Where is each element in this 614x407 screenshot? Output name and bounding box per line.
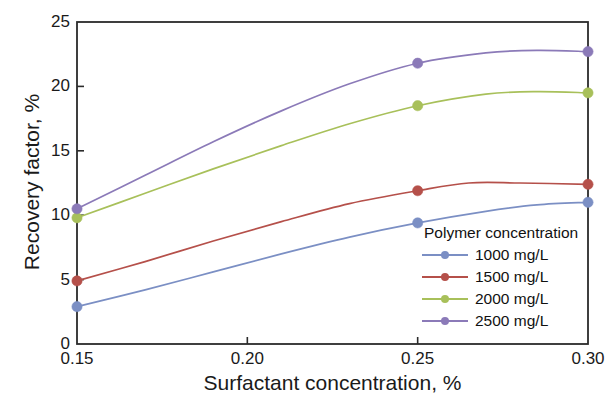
data-point-marker (72, 302, 82, 312)
data-point-marker (413, 58, 423, 68)
data-point-marker (583, 47, 593, 57)
y-tick-label: 25 (8, 12, 70, 32)
legend-item-label: 2000 mg/L (475, 290, 548, 308)
x-tick-label: 0.25 (378, 349, 458, 369)
legend-item: 2500 mg/L (422, 310, 578, 332)
legend-item: 1500 mg/L (422, 266, 578, 288)
x-tick-label: 0.20 (207, 349, 287, 369)
data-point-marker (413, 186, 423, 196)
data-point-marker (72, 204, 82, 214)
legend-item-label: 2500 mg/L (475, 312, 548, 330)
data-point-marker (413, 101, 423, 111)
x-axis-label: Surfactant concentration, % (77, 371, 588, 395)
y-axis-tick-labels: 0510152025 (0, 0, 70, 407)
y-tick-label: 5 (8, 270, 70, 290)
legend-swatch-icon (422, 248, 468, 262)
legend-items: 1000 mg/L1500 mg/L2000 mg/L2500 mg/L (422, 244, 578, 332)
legend-swatch-icon (422, 292, 468, 306)
data-point-marker (583, 179, 593, 189)
y-tick-label: 20 (8, 76, 70, 96)
data-point-marker (583, 197, 593, 207)
legend-item-label: 1000 mg/L (475, 246, 548, 264)
plot-canvas (0, 0, 614, 407)
x-tick-label: 0.30 (548, 349, 614, 369)
chart-legend: Polymer concentration 1000 mg/L1500 mg/L… (420, 222, 582, 334)
data-point-marker (72, 276, 82, 286)
y-tick-label: 10 (8, 205, 70, 225)
legend-swatch-icon (422, 314, 468, 328)
data-point-marker (72, 213, 82, 223)
y-tick-label: 15 (8, 141, 70, 161)
data-point-marker (583, 88, 593, 98)
chart-figure: Recovery factor, % Surfactant concentrat… (0, 0, 614, 407)
legend-item: 1000 mg/L (422, 244, 578, 266)
x-tick-label: 0.15 (37, 349, 117, 369)
legend-swatch-icon (422, 270, 468, 284)
legend-title: Polymer concentration (422, 224, 578, 242)
legend-item-label: 1500 mg/L (475, 268, 548, 286)
series-line-2000-mg-l (77, 92, 588, 218)
legend-item: 2000 mg/L (422, 288, 578, 310)
